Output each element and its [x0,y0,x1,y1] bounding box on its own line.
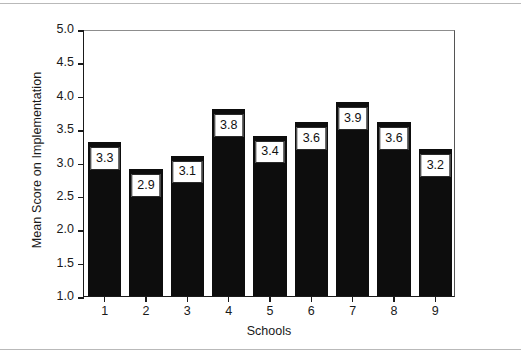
x-tick-mark [435,296,437,302]
x-tick-mark [269,296,271,302]
x-tick-label: 1 [85,304,125,318]
x-tick-mark [104,296,106,302]
y-tick-label: 2.5 [30,189,74,203]
plot-area: 5.04.54.03.53.02.52.01.51.0 123456789 3.… [83,30,455,297]
bar-value-label: 2.9 [131,174,160,197]
bar: 3.9 [336,102,369,296]
x-tick-label: 8 [374,304,414,318]
y-tick-label: 2.0 [30,222,74,236]
bar: 3.6 [377,122,410,296]
bar-value-label: 3.9 [338,107,367,130]
bar-value-label: 3.1 [173,161,202,184]
bar-value-label: 3.3 [90,147,119,170]
x-tick-label: 7 [333,304,373,318]
x-tick-label: 6 [291,304,331,318]
y-tick-label: 3.0 [30,156,74,170]
x-tick-label: 5 [250,304,290,318]
y-tick-label: 4.0 [30,89,74,103]
figure-top-rule [0,3,521,4]
y-tick-label: 1.0 [30,289,74,303]
bar: 3.3 [88,142,121,296]
x-tick-label: 4 [209,304,249,318]
bar-value-label: 3.4 [255,141,284,164]
bar-value-label: 3.8 [214,114,243,137]
y-tick-label: 4.5 [30,55,74,69]
x-tick-mark [393,296,395,302]
y-tick-mark [78,63,84,65]
bar: 3.2 [419,149,452,296]
bar: 3.4 [253,136,286,296]
y-tick-mark [78,164,84,166]
x-tick-label: 2 [126,304,166,318]
bar: 3.8 [212,109,245,296]
y-tick-mark [78,197,84,199]
x-tick-mark [145,296,147,302]
y-tick-mark [78,130,84,132]
chart-figure: Mean Score on Implementation 5.04.54.03.… [0,0,521,355]
x-tick-label: 9 [415,304,455,318]
x-axis-title: Schools [83,324,455,338]
y-tick-label: 3.5 [30,122,74,136]
x-tick-mark [311,296,313,302]
bar: 3.6 [295,122,328,296]
y-tick-mark [78,297,84,299]
figure-bottom-rule [0,349,521,350]
bar: 3.1 [171,156,204,296]
y-tick-mark [78,97,84,99]
bar: 2.9 [129,169,162,296]
y-tick-label: 1.5 [30,256,74,270]
x-tick-label: 3 [167,304,207,318]
bar-value-label: 3.6 [379,127,408,150]
x-tick-mark [352,296,354,302]
y-tick-mark [78,30,84,32]
bar-value-label: 3.6 [297,127,326,150]
y-tick-label: 5.0 [30,22,74,36]
x-tick-mark [228,296,230,302]
y-tick-mark [78,230,84,232]
x-tick-mark [187,296,189,302]
bar-value-label: 3.2 [421,154,450,177]
y-tick-mark [78,264,84,266]
